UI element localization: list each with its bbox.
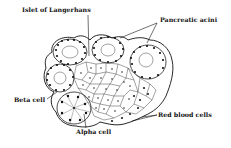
acini-leader-line-1 <box>120 23 157 38</box>
label-beta-cell: Beta cell <box>14 97 45 103</box>
label-red-blood-cells: Red blood cells <box>158 112 212 118</box>
label-alpha-cell: Alpha cell <box>76 129 111 135</box>
label-pancreatic-acini: Pancreatic acini <box>160 17 217 23</box>
label-islet-of-langerhans: Islet of Langerhans <box>22 7 91 13</box>
